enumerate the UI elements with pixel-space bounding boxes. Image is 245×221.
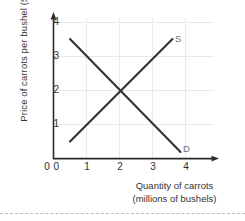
y-tick-label-4: 4 (47, 16, 59, 27)
x-tick-label-4: 4 (179, 161, 193, 172)
x-tick-label-0: 0 (40, 161, 54, 172)
demand-curve-label: D (183, 143, 190, 154)
x-axis (53, 156, 219, 162)
gridlines-vertical (87, 18, 186, 159)
bottom-divider (0, 213, 245, 214)
x-axis-title-line1: Quantity of carrots (104, 180, 245, 193)
x-tick-label-2: 2 (113, 161, 127, 172)
supply-demand-chart: Price of carrots per bushel ($) (0, 0, 245, 221)
y-tick-label-3: 3 (47, 50, 59, 61)
y-tick-label-2: 2 (47, 84, 59, 95)
y-axis-title: Price of carrots per bushel ($) (18, 0, 29, 125)
x-tick-label-3: 3 (146, 161, 160, 172)
gridlines-horizontal (53, 23, 214, 125)
y-tick-label-1: 1 (47, 118, 59, 129)
x-axis-title-line2: (millions of bushels) (104, 193, 245, 206)
supply-curve-label: S (175, 33, 181, 44)
x-tick-label-1: 1 (80, 161, 94, 172)
x-axis-title: Quantity of carrots (millions of bushels… (104, 180, 245, 205)
